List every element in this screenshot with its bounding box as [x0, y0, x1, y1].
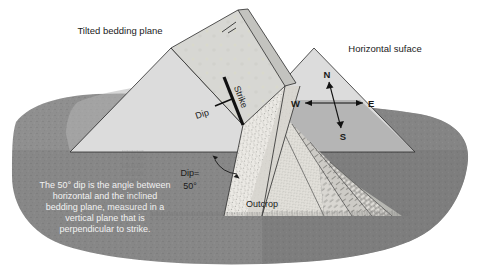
caption-line-4: vertical plane that is	[65, 213, 145, 223]
grass-tuft-band-right	[270, 210, 410, 218]
compass-label-south: S	[340, 131, 346, 142]
compass-label-north: N	[324, 69, 331, 80]
label-dip-value: 50°	[183, 181, 197, 191]
label-outcrop: Outcrop	[246, 199, 278, 209]
compass-label-west: W	[291, 98, 300, 109]
label-tilted-bedding-plane: Tilted bedding plane	[77, 25, 162, 36]
compass-label-east: E	[368, 98, 374, 109]
grass-tuft-band-slope	[122, 150, 144, 212]
label-dip-equals: Dip=	[181, 168, 200, 178]
diagram-canvas: N S E W Tilted bedding plane Horizontal …	[0, 0, 486, 277]
label-horizontal-surface: Horizontal suface	[348, 43, 421, 54]
grass-tuft-band-left	[150, 212, 270, 220]
caption-line-5: perpendicular to strike.	[59, 224, 150, 234]
caption-line-3: bedding plane, measured in a	[46, 202, 165, 212]
caption-line-1: The 50° dip is the angle between	[39, 180, 170, 190]
